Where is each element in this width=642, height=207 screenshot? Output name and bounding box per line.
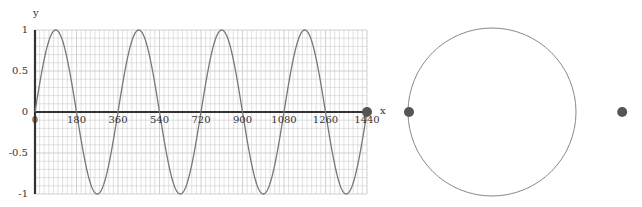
x-tick-label: 360 [108,114,127,125]
x-tick-label: 180 [67,114,86,125]
x-tick-label: 720 [191,114,210,125]
x-axis-label: x [380,105,386,116]
y-tick-label: -1 [18,188,28,199]
circle-point-handle[interactable] [404,107,414,117]
y-tick-label: -0.5 [9,147,28,158]
x-tick-label: 1260 [313,114,338,125]
x-tick-label: 1080 [271,114,296,125]
x-tick-label: 0 [32,114,38,125]
x-tick-label: 540 [150,114,169,125]
y-tick-label: 0 [22,106,28,117]
x-tick-label: 900 [233,114,252,125]
y-tick-label: 0.5 [12,65,28,76]
outside-point-handle[interactable] [617,107,627,117]
sine-wave-chart: 018036054072090010801260144010.50-0.5-1 … [0,0,642,207]
x-axis-point-handle[interactable] [362,107,372,117]
unit-circle [408,28,576,196]
y-axis-label: y [32,7,39,18]
y-tick-label: 1 [22,24,28,35]
